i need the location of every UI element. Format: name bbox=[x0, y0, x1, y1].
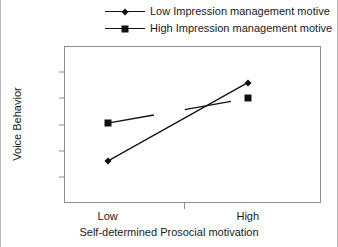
series-line-high-left bbox=[108, 115, 154, 123]
series-line-high-right bbox=[185, 101, 231, 109]
data-lines-layer bbox=[1, 0, 338, 247]
interaction-plot-figure: Low Impression management motive High Im… bbox=[0, 0, 338, 247]
series-line-low bbox=[108, 83, 248, 162]
x-axis-title: Self-determined Prosocial motivation bbox=[1, 226, 337, 238]
